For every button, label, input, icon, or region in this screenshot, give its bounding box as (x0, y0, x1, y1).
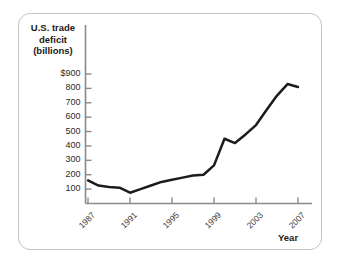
y-tick-label-800: 800 (41, 82, 81, 92)
data-line-us-trade-deficit (88, 84, 298, 193)
y-tick-label-300: 300 (41, 154, 81, 164)
y-tick-label-900: $900 (41, 68, 81, 78)
y-tick-label-100: 100 (41, 183, 81, 193)
y-tick-label-700: 700 (41, 97, 81, 107)
y-tick-label-600: 600 (41, 111, 81, 121)
y-tick-label-200: 200 (41, 169, 81, 179)
y-tick-label-500: 500 (41, 126, 81, 136)
y-tick-label-400: 400 (41, 140, 81, 150)
